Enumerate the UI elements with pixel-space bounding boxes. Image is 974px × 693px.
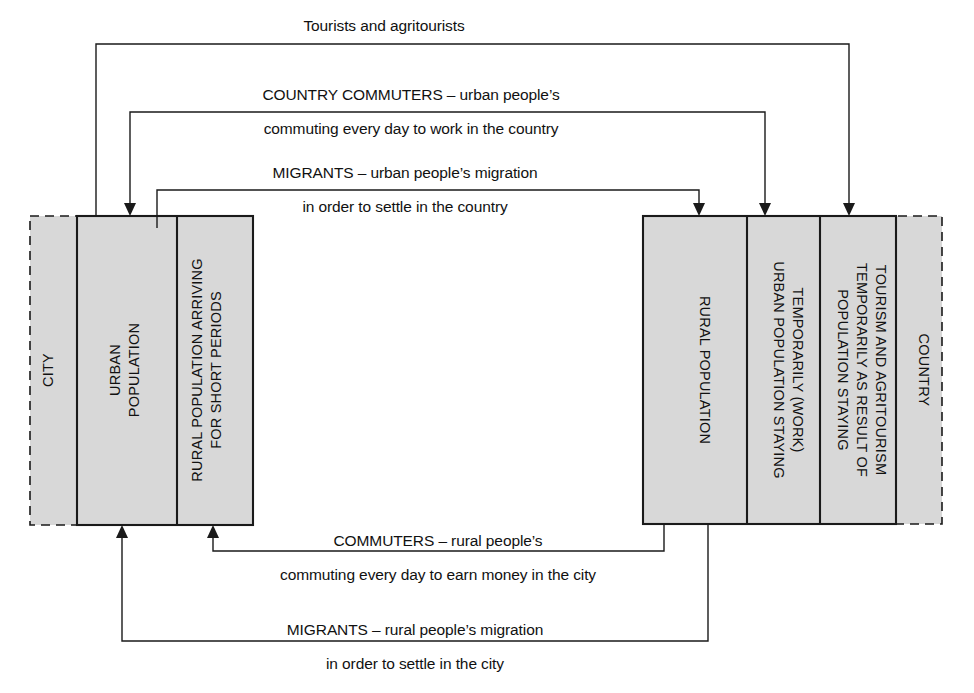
flow-label-rural-migrants-line2: in order to settle in the city — [326, 655, 504, 672]
arrow-head-tourists — [843, 203, 855, 216]
arrow-head-urban-migrants — [693, 203, 705, 216]
zone-label-country: COUNTRY — [916, 334, 932, 407]
flow-label-urban-migrants-line2: in order to settle in the country — [302, 198, 508, 215]
flow-label-rural-migrants-line1: MIGRANTS – rural people’s migration — [287, 621, 543, 638]
country-cell-label-urban-temp-line1: URBAN POPULATION STAYING — [771, 261, 787, 479]
city-cell-label-urban-population-line2: POPULATION — [126, 323, 142, 417]
country-cell-label-tourism-line1: POPULATION STAYING — [835, 289, 851, 451]
zone-label-city: CITY — [40, 353, 56, 387]
city-cell-label-urban-population-line1: URBAN — [107, 344, 123, 396]
city-cells-group — [77, 216, 253, 525]
city-cell-label-rural-short-line1: RURAL POPULATION ARRIVING — [189, 258, 205, 481]
flow-label-country-commuters-line2: commuting every day to work in the count… — [264, 120, 559, 137]
arrow-head-country-commuters-left — [124, 203, 136, 216]
flow-label-tourists-line1: Tourists and agritourists — [303, 17, 465, 34]
city-cell-label-rural-short-line2: FOR SHORT PERIODS — [208, 291, 224, 449]
arrow-head-rural-migrants — [116, 525, 128, 538]
arrow-head-country-commuters-right — [759, 203, 771, 216]
country-cell-label-tourism-line2: TEMPORARILY AS RESULT OF — [854, 263, 870, 477]
flow-label-rural-commuters-line2: commuting every day to earn money in the… — [280, 566, 596, 583]
flow-label-urban-migrants-line1: MIGRANTS – urban people’s migration — [272, 164, 537, 181]
arrow-head-rural-commuters — [207, 525, 219, 538]
diagram-canvas: Tourists and agritourists COUNTRY COMMUT… — [0, 0, 974, 693]
flow-label-rural-commuters-line1: COMMUTERS – rural people’s — [333, 532, 542, 549]
country-cell-label-urban-temp-line2: TEMPORARILY (WORK) — [790, 288, 806, 453]
country-cell-label-rural-population: RURAL POPULATION — [697, 296, 713, 444]
flow-diagram: Tourists and agritourists COUNTRY COMMUT… — [0, 0, 974, 693]
country-cell-label-tourism-line3: TOURISM AND AGRITOURISM — [873, 265, 889, 475]
flow-label-country-commuters-line1: COUNTRY COMMUTERS – urban people’s — [262, 86, 560, 103]
